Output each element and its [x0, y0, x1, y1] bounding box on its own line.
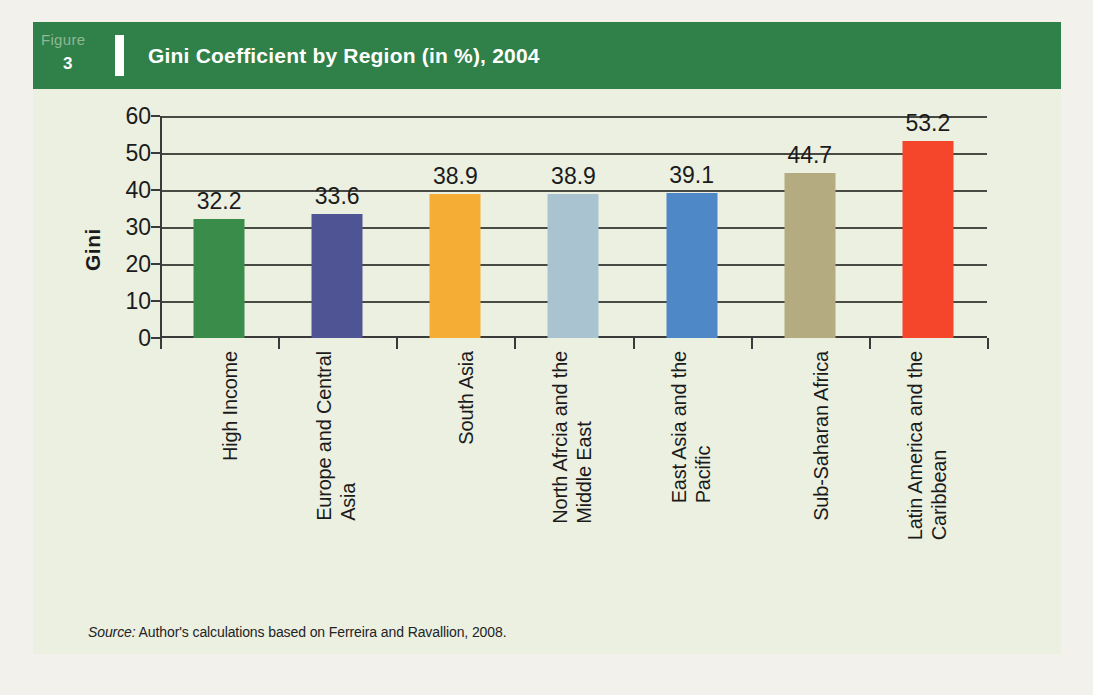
bar-slot: 39.1 [633, 116, 751, 338]
bar-value-label: 38.9 [551, 163, 596, 190]
x-axis-label: North Afrcia and theMiddle East [550, 351, 597, 524]
bar-slot: 38.9 [396, 116, 514, 338]
y-tick-mark [151, 300, 160, 302]
bar-value-label: 44.7 [787, 142, 832, 169]
bar-value-label: 53.2 [906, 110, 951, 137]
figure-panel: Figure 3 Gini Coefficient by Region (in … [33, 22, 1061, 654]
source-note-text: Author's calculations based on Ferreira … [136, 624, 507, 640]
x-tick-mark [987, 338, 989, 349]
plot-area: 32.233.638.938.939.144.753.2 [160, 116, 987, 338]
chart-body: Gini 6050403020100 32.233.638.938.939.14… [33, 89, 1061, 654]
x-axis-label: Europe and CentralAsia [314, 351, 361, 521]
x-axis-label-line: Europe and Central [314, 351, 338, 521]
bar[interactable] [548, 194, 599, 338]
x-axis-label-line: South Asia [455, 351, 477, 445]
bar[interactable] [430, 194, 481, 338]
bar-slot: 44.7 [751, 116, 869, 338]
source-note-prefix: Source: [88, 624, 136, 640]
x-axis-label-line: High Income [219, 351, 241, 461]
figure-number: 3 [63, 54, 72, 74]
x-tick-mark [751, 338, 753, 349]
x-axis-label: East Asia and thePacific [668, 351, 715, 503]
y-tick-label: 40 [125, 177, 151, 204]
y-tick-label: 60 [125, 103, 151, 130]
bar-value-label: 33.6 [315, 183, 360, 210]
y-tick-label: 10 [125, 288, 151, 315]
bar-slot: 33.6 [278, 116, 396, 338]
x-axis-label: South Asia [455, 351, 479, 445]
x-axis-label: Sub-Saharan Africa [810, 351, 834, 521]
x-label-slot: East Asia and thePacific [633, 351, 751, 601]
x-label-slot: High Income [160, 351, 278, 601]
bars-layer: 32.233.638.938.939.144.753.2 [160, 116, 987, 338]
y-tick-mark [151, 263, 160, 265]
x-tick-mark [396, 338, 398, 349]
x-axis-labels: High IncomeEurope and CentralAsiaSouth A… [160, 351, 987, 601]
y-tick-label: 30 [125, 214, 151, 241]
bar[interactable] [902, 141, 953, 338]
x-axis-label-line: Sub-Saharan Africa [810, 351, 832, 521]
bar-slot: 32.2 [160, 116, 278, 338]
x-tick-mark [278, 338, 280, 349]
x-label-slot: North Afrcia and theMiddle East [514, 351, 632, 601]
figure-page: Figure 3 Gini Coefficient by Region (in … [0, 0, 1093, 695]
x-axis-label-line: Latin America and the [904, 351, 928, 540]
x-label-slot: South Asia [396, 351, 514, 601]
x-axis-label-line: Asia [337, 351, 361, 521]
x-axis-label-line: Middle East [573, 351, 597, 524]
y-tick-mark [151, 152, 160, 154]
x-axis-ticks [160, 338, 987, 350]
x-axis-label-line: East Asia and the [668, 351, 692, 503]
figure-header-banner: Figure 3 Gini Coefficient by Region (in … [33, 22, 1061, 89]
x-tick-mark [160, 338, 162, 349]
x-tick-mark [633, 338, 635, 349]
x-axis-label-line: North Afrcia and the [550, 351, 574, 524]
y-tick-label: 20 [125, 251, 151, 278]
y-tick-mark [151, 115, 160, 117]
bar-value-label: 32.2 [197, 188, 242, 215]
figure-label-word: Figure [41, 31, 85, 48]
x-tick-mark [514, 338, 516, 349]
x-axis-label-line: Caribbean [928, 351, 952, 540]
bar-slot: 38.9 [514, 116, 632, 338]
bar[interactable] [784, 173, 835, 338]
bar-value-label: 39.1 [669, 162, 714, 189]
x-axis-label: High Income [219, 351, 243, 461]
x-axis-label: Latin America and theCaribbean [904, 351, 951, 540]
y-tick-label: 50 [125, 140, 151, 167]
bar[interactable] [194, 219, 245, 338]
bar-value-label: 38.9 [433, 163, 478, 190]
source-note: Source: Author's calculations based on F… [88, 624, 506, 640]
x-tick-mark [869, 338, 871, 349]
header-divider [115, 35, 124, 76]
x-label-slot: Europe and CentralAsia [278, 351, 396, 601]
x-label-slot: Sub-Saharan Africa [751, 351, 869, 601]
y-axis-tick-labels: 6050403020100 [101, 116, 151, 338]
bar[interactable] [312, 214, 363, 338]
y-tick-label: 0 [138, 325, 151, 352]
bar-slot: 53.2 [869, 116, 987, 338]
bar[interactable] [666, 193, 717, 338]
figure-tag: Figure 3 [33, 22, 115, 89]
x-axis-label-line: Pacific [692, 351, 716, 503]
y-tick-mark [151, 226, 160, 228]
figure-title: Gini Coefficient by Region (in %), 2004 [124, 22, 1061, 89]
y-tick-mark [151, 189, 160, 191]
x-label-slot: Latin America and theCaribbean [869, 351, 987, 601]
y-tick-mark [151, 337, 160, 339]
